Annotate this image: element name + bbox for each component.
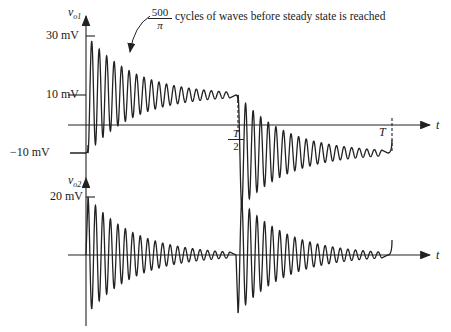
waveform-diagram [0, 0, 451, 332]
t-axis-label-top: t [436, 118, 439, 133]
tick-t-full: T [379, 125, 386, 140]
annotation-text: cycles of waves before steady state is r… [175, 10, 385, 22]
annotation-fraction: 500π [148, 6, 172, 31]
tick-10mv: 10 mV [46, 87, 79, 102]
tick-t-half: T2 [228, 127, 244, 152]
v-o1-axis-label: vo1 [68, 5, 81, 21]
top-axes [68, 16, 430, 178]
bottom-axes [68, 178, 430, 326]
tick-30mv: 30 mV [46, 28, 79, 43]
annotation-arrow [130, 16, 150, 52]
tick-20mv: 20 mV [50, 189, 83, 204]
tick-neg10mv: −10 mV [10, 145, 50, 160]
v-o2-axis-label: vo2 [68, 173, 81, 189]
v-o1-waveform [70, 42, 392, 207]
t-axis-label-bottom: t [436, 248, 439, 263]
